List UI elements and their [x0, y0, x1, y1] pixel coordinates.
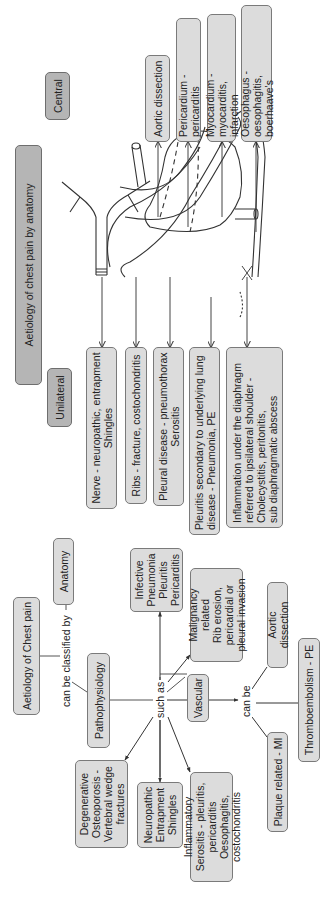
root-box-aetiology: Aetiology of Chest pain — [13, 597, 40, 715]
unilateral-item-nerve: Nerve - neuropathic, entrapment Shingles — [86, 347, 117, 509]
anatomy-title-box: Aetiology of chest pain by anatomy — [15, 145, 42, 385]
unilateral-header: Unilateral — [47, 368, 72, 427]
pathophysiology-box: Pathophysiology — [87, 653, 110, 748]
category-malignancy: Malignancy related Rib erosion, pericard… — [190, 568, 243, 662]
chest-pain-diagram: Aetiology of chest pain by anatomy Centr… — [0, 0, 330, 917]
category-neuropathic: Neuropathic Entrapment Shingles — [137, 782, 183, 848]
category-vascular: Vascular — [187, 674, 209, 722]
unilateral-item-pleuritis: Pleuritis secondary to underlying lung d… — [189, 347, 220, 535]
vascular-thromboembolism: Thromboembolism - PE — [298, 638, 320, 762]
unilateral-item-inflammation: Inflammation under the diaphragm referre… — [226, 347, 283, 528]
vascular-plaque-mi: Plaque related - MI — [267, 732, 288, 832]
central-item-oesophagus: Oesophagus - oesophagitis, boerhaave's — [241, 5, 272, 142]
central-header: Central — [45, 72, 70, 120]
can-be-label: can be — [240, 683, 252, 719]
category-degenerative: Degenerative Osteoporosis - Vertebral we… — [75, 760, 128, 848]
classified-by-label: can be classified by — [60, 613, 72, 709]
anatomy-box: Anatomy — [53, 538, 74, 605]
central-item-pericardium: Pericardium - pericarditis — [176, 18, 201, 142]
category-infective: Infective Pneumonia Pleuritis Pericardit… — [130, 548, 183, 612]
category-inflammatory: Inflammatory Serositis - pleuritis, peri… — [190, 772, 233, 882]
unilateral-item-ribs: Ribs - fracture, costochondritis — [125, 347, 147, 504]
such-as-label: such as — [154, 680, 166, 720]
central-item-aortic-dissection: Aortic dissection — [145, 55, 170, 142]
vascular-aortic-dissection: Aortic dissection — [267, 582, 288, 668]
central-item-myocardium: Myocardium - myocarditis, infarction — [207, 14, 236, 142]
unilateral-item-pleural: Pleural disease - pneumothorax Serositis — [153, 347, 184, 506]
